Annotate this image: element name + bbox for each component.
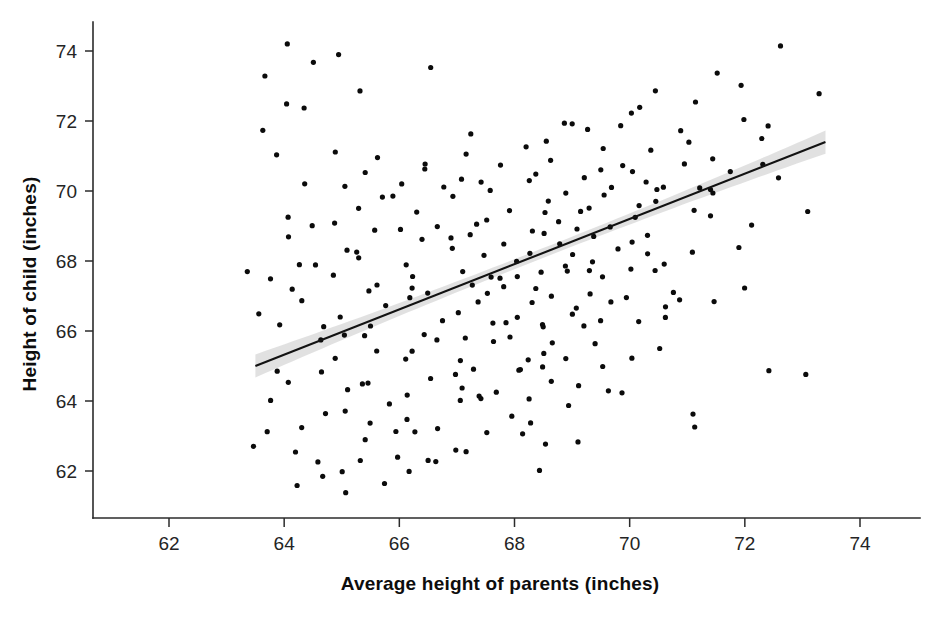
data-point — [817, 91, 822, 96]
data-point — [653, 268, 658, 273]
data-point — [608, 299, 613, 304]
x-tick-label: 72 — [734, 533, 755, 554]
data-point — [742, 285, 747, 290]
data-point — [692, 208, 697, 213]
data-point — [630, 240, 635, 245]
y-tick-label: 68 — [56, 251, 77, 272]
data-point — [803, 372, 808, 377]
data-point — [302, 181, 307, 186]
data-point — [286, 215, 291, 220]
data-point — [501, 241, 506, 246]
data-point — [739, 83, 744, 88]
data-point — [582, 175, 587, 180]
data-point — [450, 246, 455, 251]
data-point — [414, 210, 419, 215]
data-point — [356, 255, 361, 260]
data-point — [458, 398, 463, 403]
data-point — [464, 152, 469, 157]
data-point — [637, 105, 642, 110]
data-point — [645, 251, 650, 256]
data-point — [290, 287, 295, 292]
y-tick-label: 64 — [56, 391, 78, 412]
data-point — [602, 192, 607, 197]
data-point — [374, 282, 379, 287]
data-point — [468, 232, 473, 237]
data-point — [404, 262, 409, 267]
data-point — [323, 411, 328, 416]
data-point — [518, 367, 523, 372]
data-point — [663, 315, 668, 320]
data-point — [286, 380, 291, 385]
data-point — [501, 284, 506, 289]
data-point — [275, 369, 280, 374]
data-point — [629, 356, 634, 361]
data-point — [407, 295, 412, 300]
data-point — [550, 340, 555, 345]
data-point — [268, 276, 273, 281]
data-point — [527, 251, 532, 256]
data-point — [404, 417, 409, 422]
data-point — [471, 367, 476, 372]
data-point — [343, 409, 348, 414]
data-point — [435, 224, 440, 229]
data-point — [587, 268, 592, 273]
data-point — [503, 320, 508, 325]
x-axis: 62646668707274 Average height of parents… — [93, 518, 920, 594]
data-point — [419, 237, 424, 242]
data-point — [542, 231, 547, 236]
data-point — [405, 393, 410, 398]
data-point — [575, 439, 580, 444]
data-point — [507, 334, 512, 339]
data-point — [375, 155, 380, 160]
data-point — [692, 424, 697, 429]
data-point — [479, 180, 484, 185]
data-point — [331, 273, 336, 278]
data-point — [598, 167, 603, 172]
data-point — [358, 458, 363, 463]
data-point — [662, 262, 667, 267]
x-axis-title: Average height of parents (inches) — [341, 573, 660, 594]
data-point — [320, 474, 325, 479]
data-point — [565, 269, 570, 274]
data-point — [578, 209, 583, 214]
data-point — [671, 290, 676, 295]
x-tick-label: 66 — [389, 533, 410, 554]
data-point — [456, 310, 461, 315]
data-point — [728, 169, 733, 174]
data-point — [468, 131, 473, 136]
regression-line-group — [255, 142, 825, 366]
data-point — [285, 41, 290, 46]
data-point — [491, 339, 496, 344]
data-point — [562, 121, 567, 126]
data-point — [464, 449, 469, 454]
data-point — [484, 217, 489, 222]
data-point — [766, 368, 771, 373]
data-point — [600, 364, 605, 369]
data-point — [618, 123, 623, 128]
data-point — [630, 169, 635, 174]
data-point — [507, 208, 512, 213]
data-point — [574, 226, 579, 231]
data-point — [498, 163, 503, 168]
data-point — [570, 252, 575, 257]
data-point — [450, 194, 455, 199]
data-point — [653, 88, 658, 93]
data-point — [260, 128, 265, 133]
data-point — [313, 262, 318, 267]
data-point — [274, 152, 279, 157]
data-point — [299, 425, 304, 430]
data-point — [524, 144, 529, 149]
data-point — [319, 369, 324, 374]
x-tick-group: 62646668707274 — [158, 518, 871, 554]
data-point — [311, 60, 316, 65]
data-point — [530, 300, 535, 305]
data-point — [425, 291, 430, 296]
data-point — [403, 357, 408, 362]
data-point — [570, 312, 575, 317]
data-point — [363, 437, 368, 442]
data-point — [333, 149, 338, 154]
data-point — [609, 185, 614, 190]
data-point — [588, 291, 593, 296]
data-point — [277, 322, 282, 327]
data-point — [412, 429, 417, 434]
